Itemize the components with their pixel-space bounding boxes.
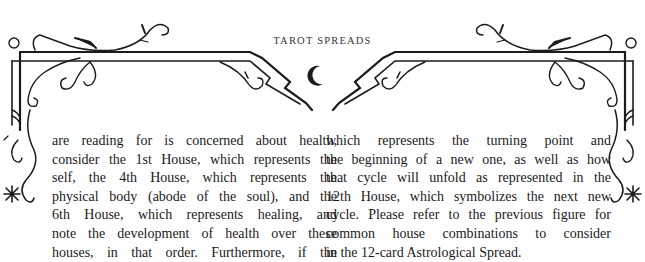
text-line: consider the 1st House, which represents… [52,151,337,170]
text-line: physical body (abode of the soul), and t… [52,188,337,207]
text-line: cycle. Please refer to the previous figu… [326,206,611,225]
text-line: which represents the turning point and [326,132,611,151]
text-line: 12th House, which symbolizes the next ne… [326,188,611,207]
crescent-moon-icon [307,66,323,86]
body-column-right: which represents the turning point and t… [326,132,611,262]
text-line: that cycle will unfold as represented in… [326,169,611,188]
text-line: 6th House, which represents healing, and [52,206,337,225]
text-line: in the 12-card Astrological Spread. [326,244,611,262]
body-column-left: are reading for is concerned about healt… [52,132,337,262]
text-line: are reading for is concerned about healt… [52,132,337,151]
text-line: the beginning of a new one, as well as h… [326,151,611,170]
star-icon [625,186,641,202]
text-line: common house combinations to consider [326,225,611,244]
text-line: note the development of health over thes… [52,225,337,244]
text-line: self, the 4th House, which represents th… [52,169,337,188]
star-icon [4,186,20,202]
running-header: TAROT SPREADS [0,35,645,46]
text-line: houses, in that order. Furthermore, if t… [52,244,337,262]
